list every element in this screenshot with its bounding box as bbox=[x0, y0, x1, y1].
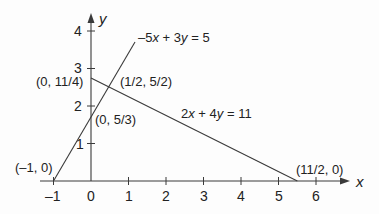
x-tick-label: 4 bbox=[237, 188, 245, 204]
equation-label-shallow: 2x + 4y = 11 bbox=[181, 106, 252, 121]
point-label: (1/2, 5/2) bbox=[120, 74, 172, 89]
y-tick-label: 4 bbox=[74, 23, 82, 39]
y-tick-label: 1 bbox=[76, 136, 84, 152]
point-label: (11/2, 0) bbox=[296, 162, 343, 177]
line-shallow bbox=[91, 78, 297, 181]
x-tick-label: 6 bbox=[312, 188, 320, 204]
coordinate-plane: x y –1 0 1 2 3 4 5 6 1 2 3 4 –5x + 3y = … bbox=[0, 0, 379, 214]
point-label: (0, 5/3) bbox=[95, 112, 136, 127]
x-tick-label: 2 bbox=[162, 188, 170, 204]
equation-label-steep: –5x + 3y = 5 bbox=[138, 30, 210, 45]
x-tick-label: 3 bbox=[200, 188, 208, 204]
x-tick-label: 1 bbox=[125, 188, 133, 204]
x-axis-arrow-icon bbox=[340, 178, 350, 185]
x-tick-label: –1 bbox=[45, 188, 61, 204]
x-tick-label: 0 bbox=[87, 188, 95, 204]
graph-figure: x y –1 0 1 2 3 4 5 6 1 2 3 4 –5x + 3y = … bbox=[0, 0, 379, 214]
y-axis-label: y bbox=[98, 10, 108, 27]
y-axis-arrow-icon bbox=[88, 13, 95, 23]
point-label: (0, 11/4) bbox=[36, 74, 83, 89]
x-axis-label: x bbox=[355, 173, 364, 190]
x-tick-label: 5 bbox=[275, 188, 283, 204]
y-tick-label: 2 bbox=[74, 98, 82, 114]
point-label: (–1, 0) bbox=[15, 160, 53, 175]
